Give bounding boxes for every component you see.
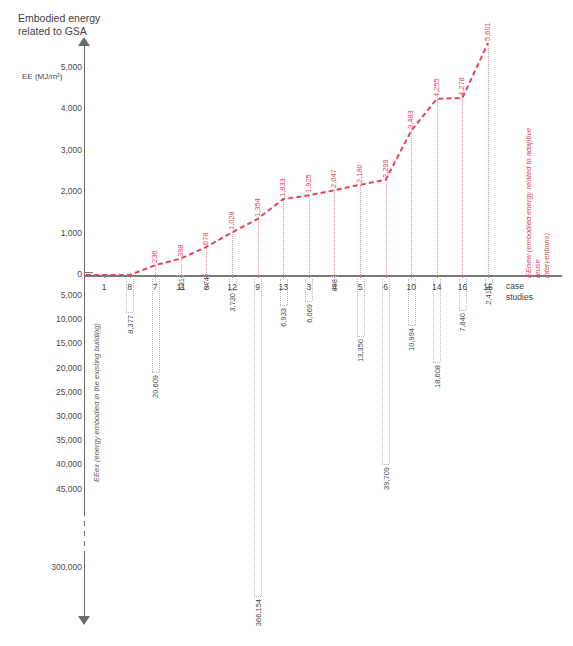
lower-axis-label: EEex (energy embodied in the existing bu… xyxy=(92,282,101,482)
y-tick-zero-mark xyxy=(84,272,93,273)
series-overlay xyxy=(0,0,573,646)
eenew-line-series xyxy=(86,43,488,275)
chart-canvas: Embodied energy related to GSA EE (MJ/m²… xyxy=(0,0,573,646)
x-axis-caption: case studies xyxy=(506,281,533,303)
eenew-series-label: EEnew (embodied energy related to adapti… xyxy=(524,108,551,278)
